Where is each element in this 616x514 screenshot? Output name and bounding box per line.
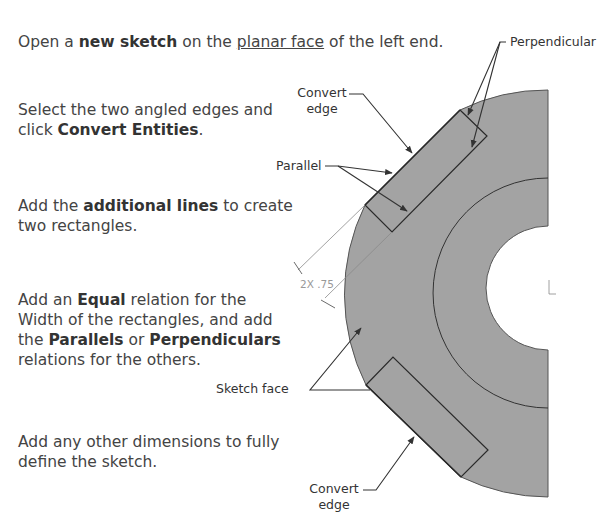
callout-sketch-face: Sketch face: [216, 381, 289, 397]
step-dimensions: Add any other dimensions to fully define…: [18, 432, 279, 472]
sketch-face[interactable]: [344, 90, 548, 497]
step-open-sketch: Open a new sketch on the planar face of …: [18, 32, 443, 52]
step-convert-entities: Select the two angled edges and click Co…: [18, 100, 273, 140]
callout-convert-edge-bottom: Convert edge: [308, 481, 360, 513]
callout-dimension[interactable]: 2X .75: [300, 276, 334, 292]
callout-perpendicular: Perpendicular: [510, 34, 596, 50]
step-additional-lines: Add the additional lines to create two r…: [18, 196, 293, 236]
leader-convert-edge-bottom: [363, 437, 414, 490]
callout-parallel: Parallel: [276, 158, 322, 174]
leader-convert-edge-top: [349, 94, 412, 153]
callout-convert-edge-top: Convert edge: [296, 85, 348, 117]
step-relations: Add an Equal relation for the Width of t…: [18, 290, 281, 370]
origin-icon: [549, 280, 556, 294]
leader-parallel: [325, 166, 392, 173]
